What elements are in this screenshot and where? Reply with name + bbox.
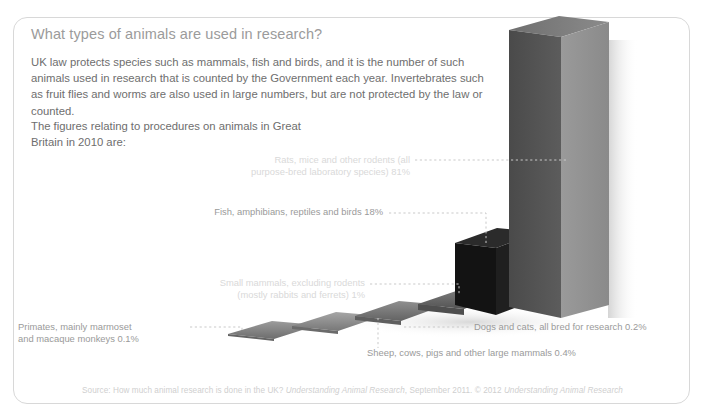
- source-credit: Source: How much animal research is done…: [0, 386, 705, 395]
- infographic-root: What types of animals are used in resear…: [0, 0, 705, 420]
- source-publication-1: Understanding Animal Research: [286, 386, 405, 395]
- label-small-mammals: Small mammals, excluding rodents (mostly…: [110, 277, 365, 302]
- source-prefix: Source: How much animal research is done…: [82, 386, 286, 395]
- label-primates: Primates, mainly marmoset and macaque mo…: [18, 321, 183, 346]
- intro-paragraph: UK law protects species such as mammals,…: [31, 54, 491, 119]
- figures-paragraph: The figures relating to procedures on an…: [31, 118, 331, 150]
- label-dogs-cats: Dogs and cats, all bred for research 0.2…: [474, 321, 689, 333]
- source-publication-2: Understanding Animal Research: [504, 386, 623, 395]
- page-title: What types of animals are used in resear…: [31, 26, 551, 42]
- label-rodents: Rats, mice and other rodents (all purpos…: [160, 154, 410, 179]
- label-fish-birds: Fish, amphibians, reptiles and birds 18%: [120, 206, 383, 218]
- source-middle: , September 2011. © 2012: [405, 386, 504, 395]
- label-large-mammals: Sheep, cows, pigs and other large mammal…: [367, 347, 667, 359]
